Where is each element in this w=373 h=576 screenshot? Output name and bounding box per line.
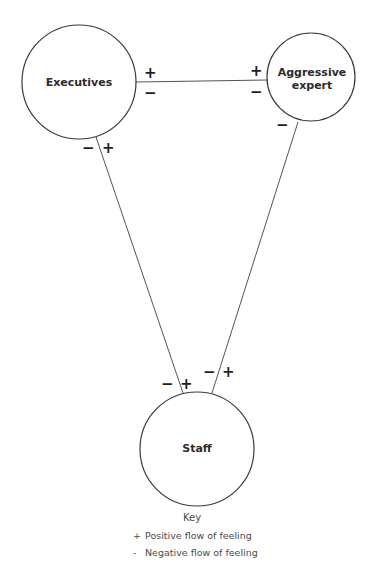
sign-exec-staff-staff-minus: − (161, 375, 174, 393)
sign-exec-staff-exec-plus: + (102, 139, 115, 157)
node-executives: Executives (22, 25, 136, 139)
sign-exec-agg-agg-plus: + (250, 62, 263, 80)
node-staff: Staff (140, 392, 254, 506)
legend-item-positive: +Positive flow of feeling (133, 530, 252, 541)
staff-label: Staff (182, 442, 212, 455)
sign-agg-staff-staff-minus: − (203, 363, 216, 381)
sign-agg-staff-agg-minus: − (276, 116, 289, 134)
executives-label: Executives (46, 76, 113, 89)
node-aggressive-expert: Aggressive expert (267, 33, 355, 121)
sign-exec-agg-agg-minus: − (250, 83, 263, 101)
sign-exec-agg-exec-minus: − (144, 84, 157, 102)
aggressive-expert-label-line1: Aggressive (278, 66, 347, 79)
legend-item-label: Negative flow of feeling (145, 547, 258, 558)
minus-icon: - (133, 547, 145, 558)
aggressive-expert-label-line2: expert (292, 79, 333, 92)
sign-agg-staff-staff-plus: + (222, 363, 235, 381)
legend-item-negative: -Negative flow of feeling (133, 547, 258, 558)
legend-item-label: Positive flow of feeling (145, 530, 252, 541)
edge-aggressive-expert-staff (212, 122, 298, 393)
sign-exec-staff-exec-minus: − (82, 139, 95, 157)
sign-exec-agg-exec-plus: + (144, 64, 157, 82)
edge-executives-staff (96, 137, 183, 393)
plus-icon: + (133, 530, 145, 541)
legend-title: Key (183, 512, 201, 523)
relationship-diagram: Executives Aggressive expert Staff + − +… (0, 0, 373, 576)
sign-exec-staff-staff-plus: + (180, 375, 193, 393)
